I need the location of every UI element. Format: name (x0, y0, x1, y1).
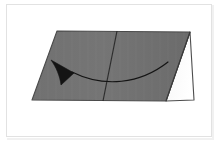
diagram-screenshot (0, 0, 223, 152)
folded-sheet-figure (0, 0, 223, 152)
